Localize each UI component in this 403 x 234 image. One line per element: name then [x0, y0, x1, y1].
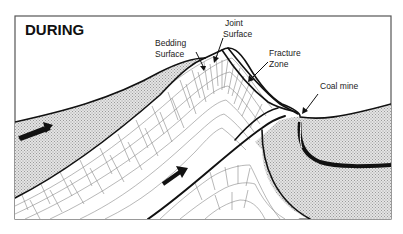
label-fracture-zone-2: Zone	[269, 59, 289, 69]
label-joint-surface-1: Joint	[225, 18, 244, 28]
label-coal-mine: Coal mine	[320, 81, 359, 91]
diagram-title: DURING	[25, 21, 84, 38]
geology-diagram: DURING Bedding Surface Joint Surface Fra…	[0, 0, 403, 234]
label-fracture-zone-1: Fracture	[269, 48, 301, 58]
label-bedding-surface-2: Surface	[155, 49, 185, 59]
label-bedding-surface-1: Bedding	[155, 38, 186, 48]
label-joint-surface-2: Surface	[223, 29, 253, 39]
